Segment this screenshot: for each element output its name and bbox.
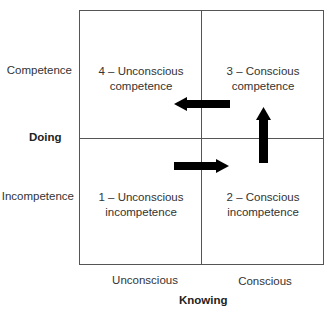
arrow-right-icon: [174, 159, 229, 173]
progression-arrows: [0, 0, 332, 312]
arrow-up-icon: [256, 107, 271, 163]
arrow-left-icon: [174, 97, 230, 111]
